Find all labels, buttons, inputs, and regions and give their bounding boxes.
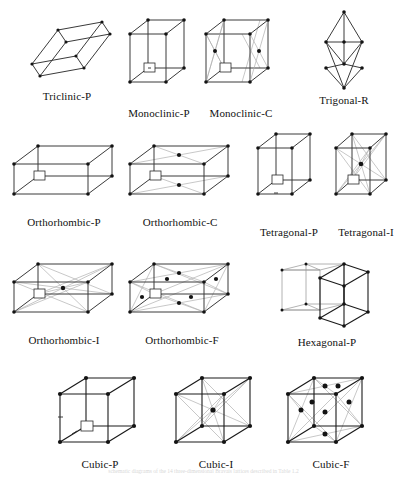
body-center-point xyxy=(359,162,364,167)
caption-monoclinic-c: Monoclinic-C xyxy=(198,107,284,119)
origin-marker xyxy=(81,421,93,431)
face-center-points xyxy=(213,49,261,53)
tetragonal-p-diagram xyxy=(252,128,326,224)
caption-triclinic-p: Triclinic-P xyxy=(14,90,120,102)
face-center-points xyxy=(140,271,218,305)
caption-hexagonal-p: Hexagonal-P xyxy=(272,336,382,348)
lattice-cell-monoclinic-p: Monoclinic-P xyxy=(122,8,196,118)
triclinic-p-diagram xyxy=(14,8,120,88)
origin-marker xyxy=(150,289,161,298)
orthorhombic-i-diagram xyxy=(8,258,120,332)
origin-marker xyxy=(272,175,283,184)
lattice-cell-orthorhombic-c: Orthorhombic-C xyxy=(124,140,236,230)
lattice-cell-orthorhombic-f: Orthorhombic-F xyxy=(124,258,240,348)
lattice-cell-tetragonal-p: Tetragonal-P xyxy=(252,128,326,238)
orthorhombic-p-diagram xyxy=(8,140,120,214)
lattice-cell-cubic-i: Cubic-I xyxy=(164,372,268,468)
lattice-cell-cubic-p: Cubic-P xyxy=(48,372,152,468)
face-center-points xyxy=(177,153,181,187)
caption-orthorhombic-p: Orthorhombic-P xyxy=(8,216,120,228)
lattice-cell-orthorhombic-p: Orthorhombic-P xyxy=(8,140,120,230)
lattice-cell-triclinic-p: Triclinic-P xyxy=(14,8,120,108)
caption-orthorhombic-c: Orthorhombic-C xyxy=(124,216,236,228)
origin-marker xyxy=(220,63,231,72)
caption-trigonal-r: Trigonal-R xyxy=(296,94,392,106)
caption-monoclinic-p: Monoclinic-P xyxy=(122,107,196,119)
lattice-cell-trigonal-r: Trigonal-R xyxy=(296,8,392,108)
monoclinic-p-diagram xyxy=(122,8,196,104)
cubic-i-diagram xyxy=(164,372,268,456)
trigonal-r-diagram xyxy=(296,8,392,100)
caption-orthorhombic-i: Orthorhombic-I xyxy=(8,334,120,346)
caption-tetragonal-i: Tetragonal-I xyxy=(328,226,404,238)
tetragonal-i-diagram xyxy=(328,128,404,224)
lattice-cell-tetragonal-i: Tetragonal-I xyxy=(328,128,404,238)
hexagonal-p-diagram xyxy=(272,258,382,334)
lattice-cell-monoclinic-c: Monoclinic-C xyxy=(198,8,284,118)
origin-marker xyxy=(34,171,45,180)
face-center-points xyxy=(299,384,352,437)
origin-marker xyxy=(144,63,155,72)
caption-tetragonal-p: Tetragonal-P xyxy=(252,226,326,238)
figure-footnote: schematic diagrams of the 14 three-dimen… xyxy=(0,468,407,474)
bravais-lattice-figure: Triclinic-P Monoclinic-P xyxy=(0,0,407,480)
body-center-point xyxy=(210,407,215,412)
lattice-cell-cubic-f: Cubic-F xyxy=(276,372,386,468)
origin-marker xyxy=(150,171,161,180)
orthorhombic-f-diagram xyxy=(124,258,240,332)
body-center-point xyxy=(61,286,65,290)
cubic-p-diagram xyxy=(48,372,152,456)
lattice-cell-orthorhombic-i: Orthorhombic-I xyxy=(8,258,120,348)
cubic-f-diagram xyxy=(276,372,386,456)
origin-marker xyxy=(348,175,359,184)
monoclinic-c-diagram xyxy=(198,8,284,104)
orthorhombic-c-diagram xyxy=(124,140,236,214)
lattice-cell-hexagonal-p: Hexagonal-P xyxy=(272,258,382,348)
origin-marker xyxy=(34,289,45,298)
caption-orthorhombic-f: Orthorhombic-F xyxy=(124,334,240,346)
